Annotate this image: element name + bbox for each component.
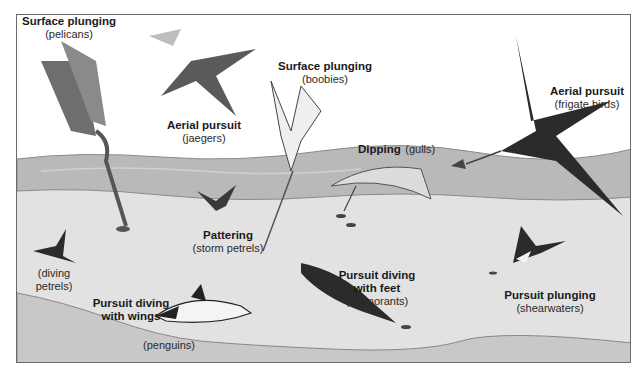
jaeger-illustration xyxy=(149,29,256,116)
method-text: Pattering xyxy=(183,229,273,242)
label-boobies: Surface plunging (boobies) xyxy=(273,60,377,86)
method-text-line2: with wings xyxy=(79,310,183,323)
bird-text: (pelicans) xyxy=(17,28,121,41)
label-pelicans: Surface plunging (pelicans) xyxy=(17,15,121,41)
bird-text: (storm petrels) xyxy=(183,242,273,255)
method-text-line1: Pursuit diving xyxy=(325,269,429,282)
label-penguins: (penguins) xyxy=(129,339,209,352)
method-text: Surface plunging xyxy=(17,15,121,28)
label-gulls: Dipping (gulls) xyxy=(358,141,435,156)
bird-text: (gulls) xyxy=(405,143,435,155)
bird-text-line2: petrels) xyxy=(33,280,75,293)
bird-text: (jaegers) xyxy=(152,132,256,145)
diagram-frame: Surface plunging (pelicans) Aerial pursu… xyxy=(16,14,631,363)
bird-text: (cormorants) xyxy=(325,295,429,308)
label-shearwaters: Pursuit plunging (shearwaters) xyxy=(495,289,605,315)
label-jaegers: Aerial pursuit (jaegers) xyxy=(152,119,256,145)
label-frigate-birds: Aerial pursuit (frigate birds) xyxy=(535,85,631,111)
bird-text: (boobies) xyxy=(273,73,377,86)
method-text: Aerial pursuit xyxy=(535,85,631,98)
bird-text-line1: (diving xyxy=(33,267,75,280)
label-storm-petrels: Pattering (storm petrels) xyxy=(183,229,273,255)
method-text: Pursuit plunging xyxy=(495,289,605,302)
method-text-line2: with feet xyxy=(325,282,429,295)
method-text: Aerial pursuit xyxy=(152,119,256,132)
label-pursuit-diving-wings: Pursuit diving with wings xyxy=(79,297,183,323)
method-text: Surface plunging xyxy=(273,60,377,73)
bird-text: (frigate birds) xyxy=(535,98,631,111)
bird-text: (penguins) xyxy=(129,339,209,352)
label-cormorants: Pursuit diving with feet (cormorants) xyxy=(325,269,429,308)
label-diving-petrels: (diving petrels) xyxy=(33,267,75,293)
bird-text: (shearwaters) xyxy=(495,302,605,315)
method-text-line1: Pursuit diving xyxy=(79,297,183,310)
method-text: Dipping xyxy=(358,143,401,155)
